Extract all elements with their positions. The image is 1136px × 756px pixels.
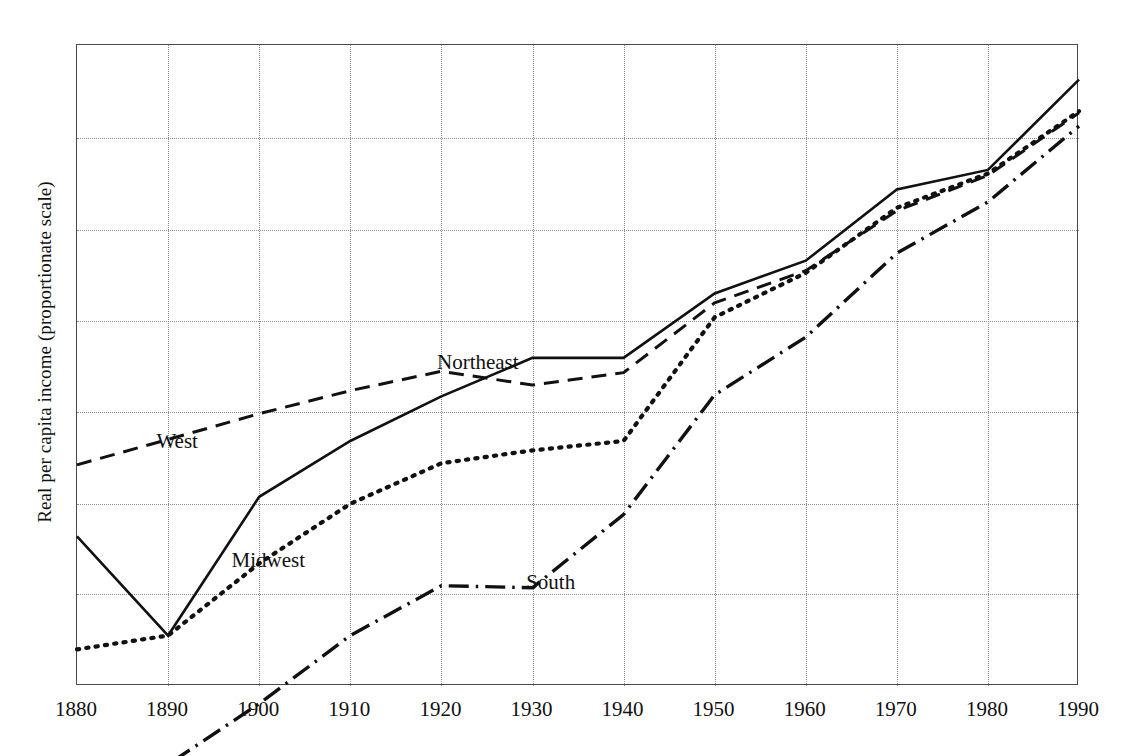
x-tick-label: 1940 <box>583 694 663 724</box>
figure-root: Real per capita income (proportionate sc… <box>0 0 1136 756</box>
gridline-horizontal <box>77 138 1079 139</box>
gridline-vertical <box>806 45 807 686</box>
series-line-west <box>77 113 1079 465</box>
x-tick-label: 1980 <box>947 694 1027 724</box>
x-tick-label: 1970 <box>856 694 936 724</box>
x-tick-label: 1910 <box>309 694 389 724</box>
gridline-vertical <box>350 45 351 686</box>
gridline-vertical <box>897 45 898 686</box>
x-tick-label: 1920 <box>400 694 480 724</box>
series-label-west: West <box>156 430 197 452</box>
x-tick-label: 1890 <box>127 694 207 724</box>
series-line-south <box>77 126 1079 756</box>
gridline-vertical <box>441 45 442 686</box>
gridline-horizontal <box>77 504 1079 505</box>
series-line-northeast <box>77 80 1079 636</box>
plot-frame: NortheastWestMidwestSouth <box>76 44 1078 685</box>
x-tick-label: 1950 <box>674 694 754 724</box>
x-tick-label: 1900 <box>218 694 298 724</box>
series-lines <box>77 45 1079 686</box>
gridline-horizontal <box>77 594 1079 595</box>
gridline-horizontal <box>77 321 1079 322</box>
x-axis-tick-labels: 1880189019001910192019301940195019601970… <box>0 694 1136 728</box>
gridline-vertical <box>624 45 625 686</box>
x-tick-label: 1990 <box>1038 694 1118 724</box>
series-label-midwest: Midwest <box>232 549 306 571</box>
series-labels: NortheastWestMidwestSouth <box>77 45 1079 686</box>
series-label-northeast: Northeast <box>437 351 519 373</box>
gridline-vertical <box>715 45 716 686</box>
gridline-horizontal <box>77 412 1079 413</box>
x-tick-label: 1960 <box>765 694 845 724</box>
x-tick-label: 1930 <box>492 694 572 724</box>
series-svg <box>77 45 1079 686</box>
series-line-midwest <box>77 111 1079 649</box>
gridlines <box>77 45 1079 686</box>
gridline-horizontal <box>77 230 1079 231</box>
gridline-vertical <box>259 45 260 686</box>
gridline-vertical <box>533 45 534 686</box>
y-axis-title: Real per capita income (proportionate sc… <box>30 32 60 672</box>
series-label-south: South <box>526 571 575 593</box>
x-tick-label: 1880 <box>36 694 116 724</box>
gridline-vertical <box>168 45 169 686</box>
gridline-vertical <box>988 45 989 686</box>
